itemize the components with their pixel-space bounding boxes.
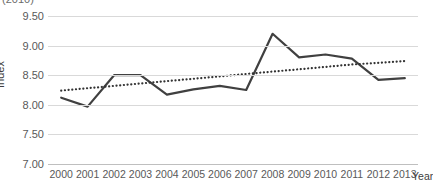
y-tick-label: 9.00 [0,40,44,52]
x-tick-label: 2009 [287,168,310,180]
x-tick-label: 2006 [208,168,231,180]
line-chart: (2010) Index 7.007.508.008.509.009.50 20… [0,0,433,192]
x-tick-label: 2011 [341,168,364,180]
plot-area [48,16,418,164]
chart-title: (2010) [2,0,34,5]
gridline [48,105,418,106]
x-tick-label: 2000 [50,168,73,180]
x-tick-label: 2005 [182,168,205,180]
y-tick-label: 8.50 [0,69,44,81]
x-tick-label: 2003 [129,168,152,180]
x-axis-line [48,164,418,165]
x-axis-title: Year [412,170,433,182]
x-axis-tick-labels: 2000200120022003200420052006200720082009… [0,168,433,184]
series-lines [48,16,418,164]
gridline [48,75,418,76]
y-tick-label: 8.00 [0,99,44,111]
x-tick-label: 2002 [102,168,125,180]
x-tick-label: 2007 [235,168,258,180]
x-tick-label: 2001 [76,168,99,180]
x-tick-label: 2010 [314,168,337,180]
gridline [48,16,418,17]
x-tick-label: 2012 [367,168,390,180]
gridline [48,46,418,47]
y-axis-title: Index [0,61,6,88]
gridline [48,134,418,135]
y-tick-label: 7.50 [0,128,44,140]
x-tick-label: 2008 [261,168,284,180]
x-tick-label: 2004 [155,168,178,180]
y-tick-label: 9.50 [0,10,44,22]
